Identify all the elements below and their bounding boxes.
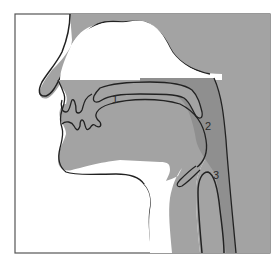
label-oral-cavity: 1 [112,93,118,105]
label-larynx: 3 [213,169,219,181]
label-pharynx: 2 [205,120,211,132]
vocal-tract-diagram: 1 2 3 [0,0,280,265]
